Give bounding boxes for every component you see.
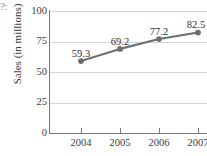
- sales-line-chart: ?: Sales (in millions) 100 75 50 25 0 20…: [0, 0, 207, 156]
- data-point-2007: [195, 30, 201, 36]
- data-label-2005: 69.2: [100, 36, 140, 47]
- data-point-2006: [156, 36, 162, 42]
- data-label-2007: 82.5: [176, 19, 207, 30]
- data-label-2006: 77.2: [139, 26, 179, 37]
- data-label-2004: 59.3: [61, 48, 101, 59]
- data-point-2004: [78, 58, 84, 64]
